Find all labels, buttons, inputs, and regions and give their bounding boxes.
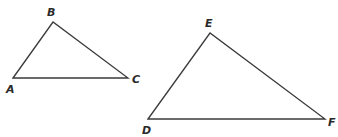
vertex-label-b: B: [47, 6, 55, 19]
triangle-def: [148, 33, 325, 119]
vertex-label-a: A: [5, 83, 15, 96]
vertex-label-c: C: [132, 73, 140, 86]
vertex-label-d: D: [142, 124, 151, 137]
diagram-canvas: A B C D E F: [0, 0, 338, 137]
vertex-label-e: E: [205, 17, 213, 30]
triangle-abc: [13, 22, 128, 78]
vertex-label-f: F: [328, 116, 336, 129]
